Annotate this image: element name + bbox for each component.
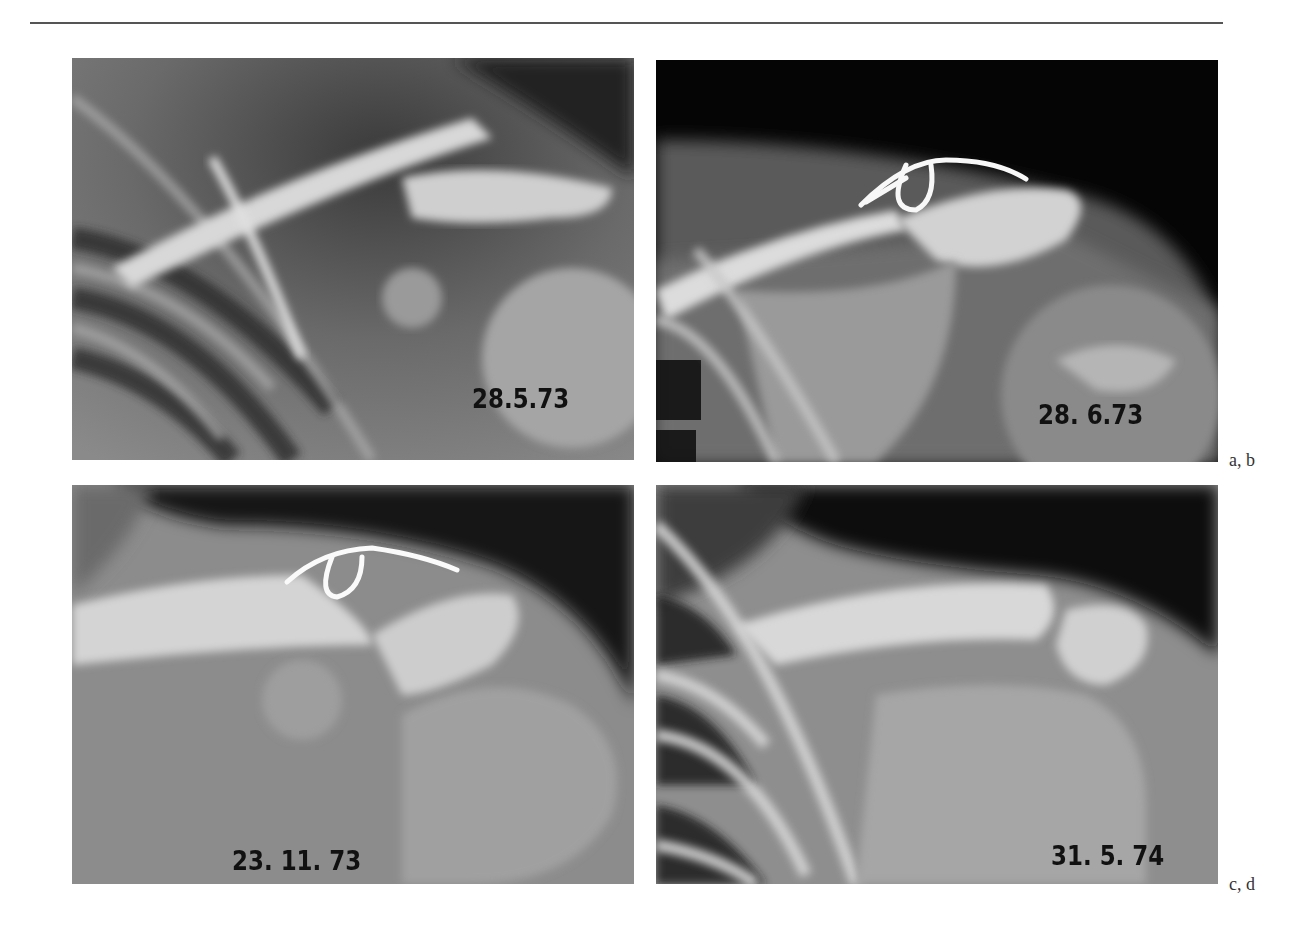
xray-panel-b: 28. 6.73 <box>656 60 1218 462</box>
xray-panel-a: 28.5.73 <box>72 58 634 460</box>
xray-image-c <box>72 485 634 884</box>
xray-image-d <box>656 485 1218 884</box>
row-label-cd: c, d <box>1229 874 1255 895</box>
row-label-ab: a, b <box>1229 450 1255 471</box>
date-label-a: 28.5.73 <box>472 383 569 414</box>
date-label-d: 31. 5. 74 <box>1051 840 1164 871</box>
date-label-b: 28. 6.73 <box>1038 399 1143 430</box>
xray-panel-c: 23. 11. 73 <box>72 485 634 884</box>
xray-panel-d: 31. 5. 74 <box>656 485 1218 884</box>
header-rule <box>30 22 1223 24</box>
date-label-c: 23. 11. 73 <box>232 845 361 876</box>
